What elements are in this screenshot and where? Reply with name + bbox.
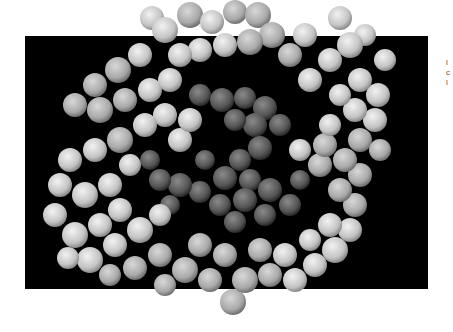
caption-fragment-3: l [446, 78, 453, 88]
molecular-model-image [0, 0, 453, 332]
outer-ring [43, 0, 396, 315]
caption-fragment-1: l [446, 58, 453, 68]
cropped-caption-text: l c l [446, 58, 453, 88]
caption-fragment-2: c [446, 68, 453, 78]
